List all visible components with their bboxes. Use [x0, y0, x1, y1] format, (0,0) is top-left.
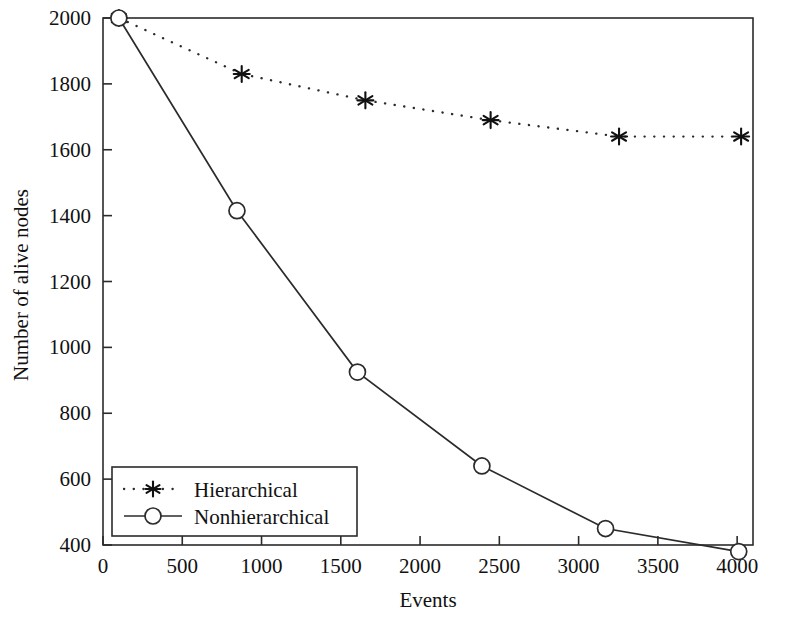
data-point-asterisk-marker: [483, 112, 499, 128]
x-tick-label: 3500: [637, 554, 679, 578]
y-tick-label: 600: [60, 467, 92, 491]
x-tick-label: 1000: [241, 554, 283, 578]
y-tick-label: 2000: [49, 6, 91, 30]
y-tick-label: 400: [60, 533, 92, 557]
x-tick-label: 500: [167, 554, 199, 578]
data-point-asterisk-marker: [234, 66, 250, 82]
data-point-asterisk-marker: [611, 129, 627, 145]
data-point-circle-marker: [474, 458, 490, 474]
x-tick-label: 0: [98, 554, 109, 578]
data-point-circle-marker: [229, 203, 245, 219]
x-axis-ticks: [103, 536, 737, 545]
x-axis-title: Events: [399, 588, 456, 612]
legend-marker-circle-icon: [145, 508, 161, 524]
series-line: [119, 18, 741, 137]
chart-figure: 400600800100012001400160018002000 050010…: [0, 0, 788, 625]
legend-label-nonhierarchical: Nonhierarchical: [194, 505, 329, 529]
y-axis-ticks: [103, 18, 112, 545]
series-hierarchical: [111, 10, 749, 145]
data-point-circle-marker: [111, 10, 127, 26]
y-tick-label: 1400: [49, 204, 91, 228]
x-tick-label: 3000: [558, 554, 600, 578]
y-tick-label: 800: [60, 401, 92, 425]
data-point-circle-marker: [731, 544, 747, 560]
legend-label-hierarchical: Hierarchical: [194, 478, 298, 502]
y-tick-label: 1000: [49, 335, 91, 359]
x-axis-tick-labels: 05001000150020002500300035004000: [98, 554, 758, 578]
y-tick-label: 1800: [49, 72, 91, 96]
x-tick-label: 2500: [478, 554, 520, 578]
plot-frame: [103, 18, 753, 545]
data-point-asterisk-marker: [357, 92, 373, 108]
y-tick-label: 1200: [49, 270, 91, 294]
y-axis-tick-labels: 400600800100012001400160018002000: [49, 6, 91, 557]
x-tick-label: 1500: [320, 554, 362, 578]
data-point-circle-marker: [598, 521, 614, 537]
x-tick-label: 2000: [399, 554, 441, 578]
y-axis-title: Number of alive nodes: [9, 189, 33, 381]
data-point-circle-marker: [349, 364, 365, 380]
data-point-asterisk-marker: [733, 129, 749, 145]
line-chart: 400600800100012001400160018002000 050010…: [0, 0, 788, 625]
chart-legend: Hierarchical Nonhierarchical: [112, 467, 357, 536]
y-tick-label: 1600: [49, 138, 91, 162]
